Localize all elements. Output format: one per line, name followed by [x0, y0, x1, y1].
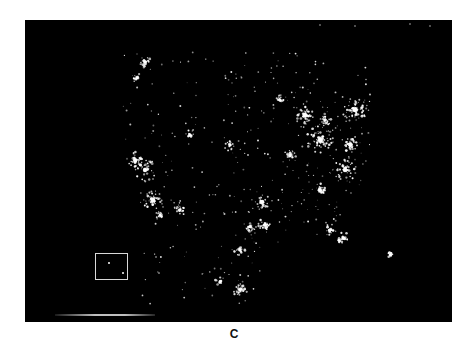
- panel-label: C: [0, 327, 468, 341]
- hawaii-light: [122, 272, 124, 274]
- hawaii-inset-box: [95, 253, 128, 280]
- city-lights-layer: [25, 20, 452, 322]
- scale-bar: [55, 314, 155, 316]
- night-lights-image: [25, 20, 452, 322]
- hawaii-light: [108, 262, 110, 264]
